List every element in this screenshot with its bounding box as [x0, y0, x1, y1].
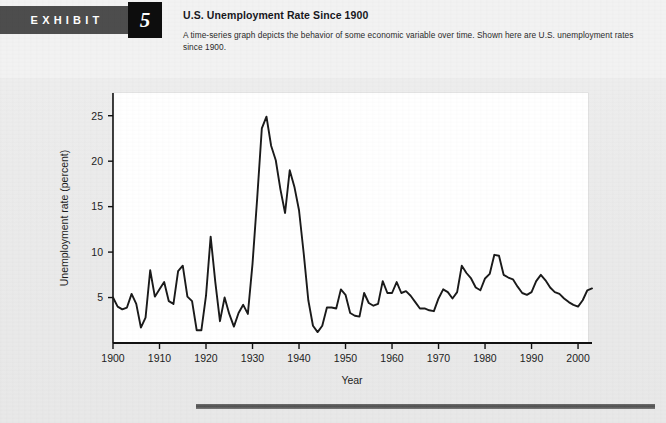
x-tick-label: 1930	[241, 352, 265, 364]
unemployment-line-chart: 510152025 190019101920193019401950196019…	[0, 78, 666, 393]
y-tick-label: 20	[91, 155, 103, 167]
unemployment-rate-line	[113, 117, 592, 332]
exhibit-label-text: EXHIBIT	[31, 14, 104, 26]
x-tick-label: 1920	[194, 352, 218, 364]
page-title: U.S. Unemployment Rate Since 1900	[183, 9, 643, 21]
x-tick-label: 1980	[473, 352, 497, 364]
exhibit-header: EXHIBIT 5 U.S. Unemployment Rate Since 1…	[0, 0, 666, 78]
x-tick-label: 1950	[334, 352, 358, 364]
x-tick-label: 1900	[101, 352, 125, 364]
x-tick-label: 1990	[520, 352, 544, 364]
x-axis-ticks: 1900191019201930194019501960197019801990…	[101, 343, 590, 364]
exhibit-number-text: 5	[140, 8, 151, 33]
exhibit-number-badge: 5	[128, 2, 162, 38]
page-surface: EXHIBIT 5 U.S. Unemployment Rate Since 1…	[0, 0, 666, 423]
x-tick-label: 1960	[380, 352, 404, 364]
x-tick-label: 2000	[566, 352, 590, 364]
y-axis-title: Unemployment rate (percent)	[58, 150, 70, 287]
chart-container: 510152025 190019101920193019401950196019…	[0, 78, 666, 393]
exhibit-description: A time-series graph depicts the behavior…	[183, 29, 645, 53]
y-tick-label: 10	[91, 246, 103, 258]
y-tick-label: 25	[91, 110, 103, 122]
x-axis-title: Year	[341, 374, 363, 386]
x-tick-label: 1970	[427, 352, 451, 364]
y-axis-ticks: 510152025	[91, 110, 113, 304]
y-tick-label: 5	[97, 291, 103, 303]
exhibit-label-banner: EXHIBIT	[0, 6, 128, 34]
x-tick-label: 1910	[148, 352, 172, 364]
y-tick-label: 15	[91, 200, 103, 212]
bottom-divider-rule	[196, 404, 655, 409]
x-tick-label: 1940	[287, 352, 311, 364]
